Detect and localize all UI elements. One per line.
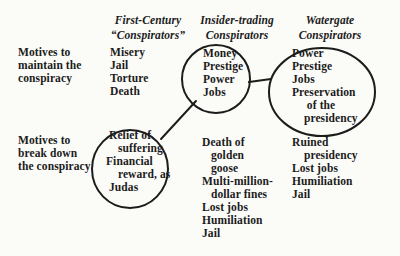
list-insider-trading-breakdown-motives: Death of golden goose Multi-million- dol… xyxy=(202,136,273,240)
list-first-century-breakdown-motives: Relief of suffering Financial reward, as… xyxy=(106,129,170,194)
connector-insider-to-watergate-line xyxy=(249,79,271,82)
row-label-maintain-conspiracy: Motives to maintain the conspiracy xyxy=(18,46,82,85)
row-label-break-down-conspiracy: Motives to break down the conspiracy xyxy=(18,134,91,173)
list-watergate-breakdown-motives: Ruined presidency Lost jobs Humiliation … xyxy=(292,136,358,201)
header-first-century-conspirators: First-Century “Conspirators” xyxy=(100,13,196,43)
list-insider-trading-maintain-motives: Money Prestige Power Jobs xyxy=(203,47,243,99)
list-watergate-maintain-motives: Power Prestige Jobs Preservation of the … xyxy=(292,47,358,125)
list-first-century-maintain-motives: Misery Jail Torture Death xyxy=(110,46,148,98)
header-watergate-conspirators: Watergate Conspirators xyxy=(282,13,378,43)
conspiracy-motives-diagram: First-Century “Conspirators” Insider-tra… xyxy=(0,0,400,256)
header-insider-trading-conspirators: Insider-trading Conspirators xyxy=(189,13,285,43)
